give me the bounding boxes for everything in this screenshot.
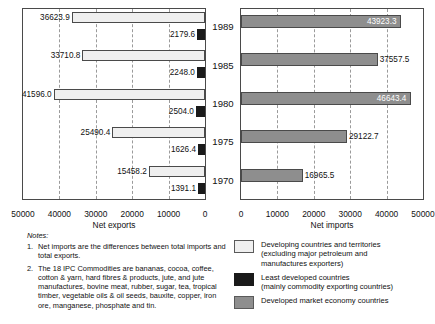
axis-tick-label: 20000 <box>121 209 144 219</box>
bar-developing <box>72 12 205 23</box>
legend-label-developed-market: Developed market economy countries <box>261 296 388 309</box>
bar-value-label: 25490.4 <box>81 128 111 137</box>
legend-label-developing: Developing countries and territories (ex… <box>261 240 380 268</box>
axis-tick-label: 10000 <box>266 209 289 219</box>
axis-tick-label: 20000 <box>302 209 325 219</box>
legend-swatch-least-developed-icon <box>234 273 254 286</box>
notes-block: Notes: 1. Net imports are the difference… <box>27 231 227 314</box>
legend-item-least-developed: Least developed countries (mainly commod… <box>234 273 430 292</box>
legend-label-line: Developing countries and territories <box>261 240 380 249</box>
bar-least-developed <box>197 67 205 78</box>
bar-value-label: 1391.1 <box>171 184 196 193</box>
note-number: 1. <box>27 242 38 260</box>
bar-row: 36623.92179.6 <box>23 9 205 47</box>
axis-tick-label: 0 <box>239 209 244 219</box>
bar-value-label: 15458.2 <box>117 167 147 176</box>
bar-value-label: 43923.3 <box>367 17 397 26</box>
bar-developed-market <box>241 169 303 182</box>
note-item: 1. Net imports are the differences betwe… <box>27 242 227 260</box>
axis-tick-label: 30000 <box>84 209 107 219</box>
bar-least-developed <box>198 144 205 155</box>
axis-tick-label: 0 <box>203 209 208 219</box>
axis-tick-label: 30000 <box>339 209 362 219</box>
year-label: 1989 <box>206 21 240 32</box>
bar-value-label: 33710.8 <box>51 51 81 60</box>
bar-developing <box>54 89 205 100</box>
net-exports-panel: 36623.92179.633710.82248.041596.02504.02… <box>22 8 206 200</box>
bar-row: 41596.02504.0 <box>23 86 205 124</box>
legend-label-line: Developed market economy countries <box>261 296 388 305</box>
legend-item-developed-market: Developed market economy countries <box>234 296 430 309</box>
note-item: 2. The 18 IPC Commodities are bananas, c… <box>27 264 227 309</box>
bar-value-label: 29122.7 <box>349 132 379 141</box>
legend-label-line: manufactures exporters) <box>261 259 380 268</box>
bar-developed-market <box>241 130 347 143</box>
bar-least-developed <box>196 106 205 117</box>
net-imports-panel: 43923.337557.546643.429122.716965.5 0100… <box>240 8 424 200</box>
bar-developing <box>149 166 205 177</box>
bar-value-label: 16965.5 <box>305 171 335 180</box>
year-label: 1975 <box>206 136 240 147</box>
bar-value-label: 41596.0 <box>22 90 52 99</box>
bar-row: 25490.41626.4 <box>23 124 205 162</box>
legend: Developing countries and territories (ex… <box>234 240 430 314</box>
net-exports-plot-area: 36623.92179.633710.82248.041596.02504.02… <box>22 8 206 200</box>
note-number: 2. <box>27 264 38 309</box>
bar-value-label: 36623.9 <box>40 13 70 22</box>
bar-value-label: 46643.4 <box>377 94 407 103</box>
note-text: The 18 IPC Commodities are bananas, coco… <box>38 264 227 309</box>
legend-label-line: (mainly commodity exporting countries) <box>261 282 393 291</box>
bar-value-label: 2504.0 <box>169 107 194 116</box>
net-imports-axis-title: Net imports <box>240 220 424 230</box>
charts-container: 36623.92179.633710.82248.041596.02504.02… <box>0 0 430 228</box>
bar-developed-market <box>241 53 378 66</box>
notes-title: Notes: <box>27 231 227 240</box>
bar-value-label: 2248.0 <box>170 68 195 77</box>
legend-item-developing: Developing countries and territories (ex… <box>234 240 430 268</box>
legend-swatch-developing-icon <box>234 240 254 253</box>
bar-developing <box>112 127 205 138</box>
legend-label-least-developed: Least developed countries (mainly commod… <box>261 273 393 292</box>
bar-row: 43923.3 <box>241 9 423 47</box>
year-labels: 19891985198019751970 <box>206 8 240 200</box>
bar-value-label: 2179.6 <box>170 30 195 39</box>
bar-row: 16965.5 <box>241 163 423 201</box>
net-exports-axis-title: Net exports <box>22 220 206 230</box>
axis-tick-label: 50000 <box>411 209 434 219</box>
bar-developing <box>82 50 205 61</box>
axis-tick-label: 50000 <box>11 209 34 219</box>
bar-value-label: 1626.4 <box>171 145 196 154</box>
axis-tick-label: 40000 <box>375 209 398 219</box>
legend-label-line: Least developed countries <box>261 273 393 282</box>
net-imports-plot-area: 43923.337557.546643.429122.716965.5 <box>240 8 424 200</box>
legend-swatch-developed-market-icon <box>234 296 254 309</box>
bar-least-developed <box>198 183 205 194</box>
year-label: 1985 <box>206 60 240 71</box>
bar-row: 29122.7 <box>241 124 423 162</box>
legend-label-line: (excluding major petroleum and <box>261 249 380 258</box>
year-label: 1980 <box>206 98 240 109</box>
bar-row: 46643.4 <box>241 86 423 124</box>
bar-least-developed <box>197 29 205 40</box>
bar-value-label: 37557.5 <box>380 55 410 64</box>
axis-tick-label: 10000 <box>157 209 180 219</box>
bar-row: 33710.82248.0 <box>23 47 205 85</box>
bar-row: 37557.5 <box>241 47 423 85</box>
note-text: Net imports are the differences between … <box>38 242 227 260</box>
year-label: 1970 <box>206 175 240 186</box>
axis-tick-label: 40000 <box>48 209 71 219</box>
bar-row: 15458.21391.1 <box>23 163 205 201</box>
